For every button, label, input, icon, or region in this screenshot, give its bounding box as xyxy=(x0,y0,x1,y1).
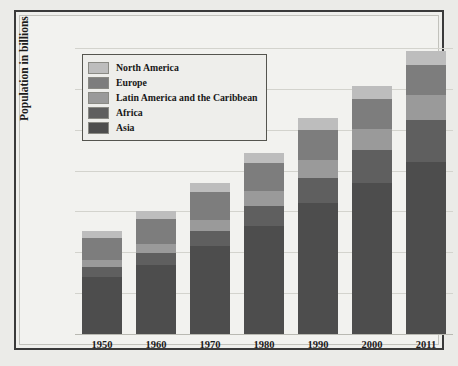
bar-segment[interactable] xyxy=(352,150,392,183)
bar-segment[interactable] xyxy=(406,120,446,163)
bar-segment[interactable] xyxy=(298,160,338,178)
stacked-bar[interactable] xyxy=(406,51,446,334)
legend-swatch xyxy=(88,92,109,104)
stacked-bar[interactable] xyxy=(244,153,284,334)
bar-segment[interactable] xyxy=(190,220,230,231)
bar-segment[interactable] xyxy=(82,267,122,276)
bar-segment[interactable] xyxy=(82,260,122,267)
stacked-bar[interactable] xyxy=(82,231,122,334)
chart-inner-frame: Population in billions 76543210 19501960… xyxy=(19,15,439,345)
bar-segment[interactable] xyxy=(298,130,338,160)
x-tick-label: 2000 xyxy=(342,340,402,351)
bar-segment[interactable] xyxy=(244,226,284,334)
bar-segment[interactable] xyxy=(82,277,122,334)
stacked-bar[interactable] xyxy=(352,86,392,334)
bar-segment[interactable] xyxy=(406,65,446,95)
bar-segment[interactable] xyxy=(190,192,230,219)
bar-segment[interactable] xyxy=(298,178,338,204)
legend-label: Asia xyxy=(116,123,135,133)
legend-item[interactable]: Latin America and the Caribbean xyxy=(88,90,258,105)
bar-segment[interactable] xyxy=(136,244,176,253)
x-tick-label: 1960 xyxy=(126,340,186,351)
bar-segment[interactable] xyxy=(82,238,122,260)
bar-segment[interactable] xyxy=(244,206,284,226)
bar-segment[interactable] xyxy=(352,99,392,129)
bar-segment[interactable] xyxy=(136,253,176,265)
stacked-bar[interactable] xyxy=(136,211,176,334)
bar-segment[interactable] xyxy=(244,153,284,164)
bar-segment[interactable] xyxy=(352,86,392,99)
x-tick-label: 1970 xyxy=(180,340,240,351)
stacked-bar[interactable] xyxy=(190,183,230,334)
legend-swatch xyxy=(88,122,109,134)
bar-segment[interactable] xyxy=(136,265,176,334)
legend-label: North America xyxy=(116,63,179,73)
bar-segment[interactable] xyxy=(406,162,446,334)
bar-segment[interactable] xyxy=(406,51,446,64)
bar-segment[interactable] xyxy=(352,183,392,334)
y-axis-title: Population in billions xyxy=(18,16,30,121)
legend-label: Latin America and the Caribbean xyxy=(116,93,258,103)
x-tick-label: 1950 xyxy=(72,340,132,351)
bar-segment[interactable] xyxy=(298,118,338,129)
bar-segment[interactable] xyxy=(190,183,230,192)
chart-legend: North AmericaEuropeLatin America and the… xyxy=(82,54,267,141)
bar-segment[interactable] xyxy=(190,246,230,334)
bar-segment[interactable] xyxy=(244,163,284,191)
legend-swatch xyxy=(88,107,109,119)
x-tick-label: 2011 xyxy=(396,340,456,351)
legend-item[interactable]: Asia xyxy=(88,120,258,135)
x-tick-label: 1990 xyxy=(288,340,348,351)
bar-segment[interactable] xyxy=(82,231,122,238)
x-tick-label: 1980 xyxy=(234,340,294,351)
bar-segment[interactable] xyxy=(298,203,338,334)
bar-segment[interactable] xyxy=(136,219,176,244)
bar-segment[interactable] xyxy=(352,129,392,150)
legend-item[interactable]: North America xyxy=(88,60,258,75)
legend-label: Europe xyxy=(116,78,147,88)
bar-segment[interactable] xyxy=(190,231,230,246)
bar-segment[interactable] xyxy=(406,95,446,120)
legend-label: Africa xyxy=(116,108,143,118)
stacked-bar[interactable] xyxy=(298,118,338,334)
legend-swatch xyxy=(88,77,109,89)
legend-item[interactable]: Africa xyxy=(88,105,258,120)
bar-segment[interactable] xyxy=(136,211,176,219)
gridline xyxy=(75,48,453,49)
legend-swatch xyxy=(88,62,109,74)
legend-item[interactable]: Europe xyxy=(88,75,258,90)
gridline xyxy=(75,334,453,335)
bar-segment[interactable] xyxy=(244,191,284,206)
